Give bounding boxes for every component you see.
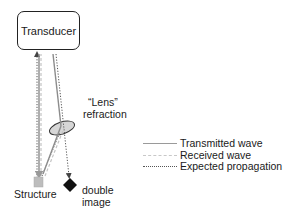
received-wave-lines — [41, 54, 64, 176]
legend-label: Transmitted wave — [180, 137, 262, 149]
double-image-label-line2: image — [82, 196, 111, 208]
solid-line-icon — [143, 143, 177, 144]
double-image-marker — [63, 178, 77, 192]
structure-marker — [34, 177, 43, 187]
lens-ellipse — [48, 118, 76, 137]
transmitted-wave-lines — [39, 54, 61, 175]
dotted-line-icon — [143, 166, 177, 167]
legend-item-transmitted: Transmitted wave — [143, 137, 262, 149]
legend-label: Expected propagation — [180, 160, 282, 172]
structure-label: Structure — [14, 188, 57, 200]
dashed-line-icon — [143, 155, 177, 156]
double-image-label-line1: double — [82, 184, 114, 196]
lens-label-line2: refraction — [83, 108, 127, 120]
transducer-label: Transducer — [21, 25, 76, 37]
transducer-box: Transducer — [17, 11, 80, 50]
expected-propagation-lines — [37, 54, 69, 178]
lens-label-line1: “Lens” — [88, 96, 118, 108]
legend-item-expected: Expected propagation — [143, 160, 282, 172]
